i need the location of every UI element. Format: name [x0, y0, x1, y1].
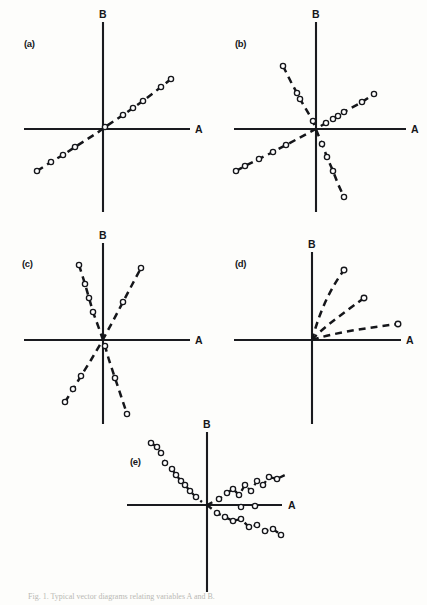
- panel-a-plot: A B: [0, 0, 214, 230]
- panel-b-tag: (b): [235, 38, 246, 49]
- figure-page: (a) A B: [0, 0, 427, 605]
- panel-d-series-group: [312, 267, 401, 340]
- panel-b-markers: [233, 63, 376, 199]
- panel-b: (b) A B: [213, 0, 427, 230]
- panel-c: (c) A B: [0, 230, 214, 430]
- panel-c-axis-label-a: A: [195, 334, 203, 346]
- panel-e-axis-label-a: A: [288, 499, 296, 511]
- panel-d-ray-steep: [312, 270, 344, 340]
- panel-d-axis-label-a: A: [406, 334, 414, 346]
- panel-e-tag: (e): [130, 456, 141, 467]
- panel-d-tag: (d): [235, 258, 246, 269]
- panel-b-axis-label-b: B: [312, 8, 320, 20]
- panel-c-tag: (c): [22, 258, 33, 269]
- panel-c-axis-label-b: B: [99, 229, 107, 241]
- panel-d: (d) A B: [213, 230, 427, 430]
- panel-e-series-group: [148, 440, 285, 537]
- panel-d-axis-label-b: B: [308, 238, 316, 250]
- panel-b-series-group: [233, 63, 376, 199]
- panel-e-plot: A B: [107, 418, 357, 598]
- panel-b-axis-label-a: A: [411, 123, 419, 135]
- panel-e-axis-label-b: B: [203, 418, 211, 430]
- panel-a: (a) A B: [0, 0, 214, 230]
- figure-caption: Fig. 1. Typical vector diagrams relating…: [28, 592, 408, 602]
- panel-a-tag: (a): [24, 38, 35, 49]
- panel-e: (e) A B: [107, 418, 357, 598]
- panel-b-plot: A B: [213, 0, 427, 230]
- panel-e-markers: [148, 440, 283, 537]
- panel-a-axis-label-b: B: [99, 8, 107, 20]
- panel-a-axis-label-a: A: [195, 123, 203, 135]
- panel-d-markers: [341, 267, 401, 327]
